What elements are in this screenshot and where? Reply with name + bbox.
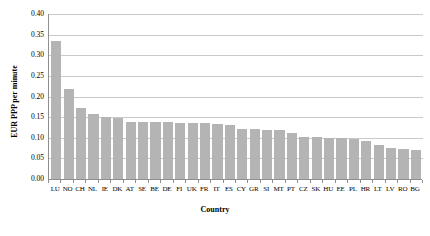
x-tick-mark (98, 180, 99, 183)
x-tick-mark (73, 180, 74, 183)
x-tick-label: EE (334, 184, 346, 196)
bar (398, 149, 408, 179)
bar (386, 148, 396, 179)
x-tick-label: PL (347, 184, 359, 196)
x-tick-mark (148, 180, 149, 183)
x-tick-mark (198, 180, 199, 183)
x-tick-label: PT (285, 184, 297, 196)
x-tick-label: SK (310, 184, 322, 196)
bar (274, 130, 284, 179)
x-tick-mark (310, 180, 311, 183)
bar (411, 150, 421, 179)
x-tick-mark (60, 180, 61, 183)
bar (175, 123, 185, 180)
x-tick-label: LV (384, 184, 396, 196)
x-tick-mark (223, 180, 224, 183)
y-tick-label: 0.35 (18, 31, 44, 39)
x-tick-label: BE (148, 184, 160, 196)
bar (200, 123, 210, 179)
y-tick-label: 0.20 (18, 93, 44, 101)
x-tick-label: DE (161, 184, 173, 196)
bar (76, 108, 86, 179)
bar (349, 139, 359, 179)
bar (150, 122, 160, 179)
x-tick-mark (297, 180, 298, 183)
x-tick-mark (385, 180, 386, 183)
x-tick-mark (210, 180, 211, 183)
x-tick-label: SI (260, 184, 272, 196)
bar (374, 145, 384, 179)
x-tick-label: SE (136, 184, 148, 196)
x-tick-mark (185, 180, 186, 183)
x-tick-label: LU (49, 184, 61, 196)
bar (51, 41, 61, 179)
x-axis-tick-marks (48, 180, 422, 183)
y-axis-tick-labels: 0.000.050.100.150.200.250.300.350.40 (18, 14, 44, 180)
x-tick-mark (235, 180, 236, 183)
bar (336, 138, 346, 179)
bar-series (49, 14, 423, 179)
bar (324, 138, 334, 179)
x-tick-label: AT (123, 184, 135, 196)
bar (225, 125, 235, 179)
x-tick-label: FR (198, 184, 210, 196)
x-tick-label: UK (185, 184, 197, 196)
x-tick-label: ES (223, 184, 235, 196)
plot-area (48, 14, 422, 180)
x-tick-mark (372, 180, 373, 183)
x-tick-label: HU (322, 184, 334, 196)
bar (113, 118, 123, 179)
bar (88, 114, 98, 179)
bar-chart: EUR PPP per minute 0.000.050.100.150.200… (0, 0, 430, 236)
x-tick-label: CZ (297, 184, 309, 196)
y-tick-label: 0.15 (18, 114, 44, 122)
x-tick-label: FI (173, 184, 185, 196)
x-tick-label: BG (409, 184, 421, 196)
x-tick-label: NO (61, 184, 73, 196)
x-tick-mark (347, 180, 348, 183)
x-axis-tick-labels: LUNOCHNLIEDKATSEBEDEFIUKFRITESCYGRSIMTPT… (48, 184, 422, 196)
bar (188, 123, 198, 179)
x-tick-mark (335, 180, 336, 183)
bar (250, 129, 260, 179)
x-tick-mark (48, 180, 49, 183)
x-tick-label: RO (396, 184, 408, 196)
bar (287, 133, 297, 179)
x-tick-mark (110, 180, 111, 183)
x-tick-mark (260, 180, 261, 183)
bar (237, 129, 247, 179)
bar (101, 117, 111, 179)
y-tick-label: 0.05 (18, 155, 44, 163)
x-tick-label: CH (74, 184, 86, 196)
bar (126, 122, 136, 179)
x-tick-mark (410, 180, 411, 183)
bar (312, 137, 322, 179)
bar (138, 122, 148, 179)
bar (64, 89, 74, 179)
bar (163, 122, 173, 179)
x-tick-mark (422, 180, 423, 183)
y-tick-label: 0.25 (18, 72, 44, 80)
x-tick-label: HR (359, 184, 371, 196)
x-tick-label: DK (111, 184, 123, 196)
x-axis-title: Country (0, 205, 430, 214)
x-tick-mark (160, 180, 161, 183)
bar (299, 137, 309, 179)
x-tick-label: IE (99, 184, 111, 196)
x-tick-mark (123, 180, 124, 183)
bar (212, 124, 222, 179)
x-tick-mark (272, 180, 273, 183)
y-tick-label: 0.40 (18, 10, 44, 18)
bar (262, 130, 272, 180)
x-tick-mark (285, 180, 286, 183)
x-tick-label: NL (86, 184, 98, 196)
x-tick-label: LT (372, 184, 384, 196)
x-tick-mark (322, 180, 323, 183)
x-tick-mark (173, 180, 174, 183)
x-tick-mark (360, 180, 361, 183)
y-tick-label: 0.00 (18, 175, 44, 183)
x-tick-mark (397, 180, 398, 183)
x-tick-label: CY (235, 184, 247, 196)
x-tick-label: GR (248, 184, 260, 196)
bar (361, 141, 371, 179)
